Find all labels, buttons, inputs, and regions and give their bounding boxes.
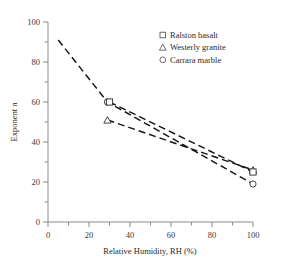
series-line-ralston-basalt — [110, 102, 254, 172]
x-tick-label: 80 — [208, 230, 217, 240]
series-line-westerly-granite — [107, 120, 253, 170]
series-westerly-granite — [104, 117, 257, 174]
triangle-marker-icon — [159, 44, 166, 50]
y-axis-ticks — [43, 22, 48, 222]
x-tick-label: 100 — [247, 230, 260, 240]
circle-marker-icon — [160, 57, 166, 63]
chart-legend: Ralston basalt Westerly granite Carrara … — [159, 30, 226, 65]
x-axis-title: Relative Humidity, RH (%) — [103, 246, 197, 256]
y-axis-tick-labels: 0 20 40 60 80 100 — [27, 17, 40, 227]
x-axis-ticks — [48, 222, 253, 227]
y-tick-label: 0 — [36, 217, 40, 227]
legend-entry-label: Carrara marble — [170, 55, 221, 65]
y-tick-label: 100 — [27, 17, 40, 27]
x-tick-label: 0 — [46, 230, 50, 240]
y-tick-label: 40 — [32, 137, 41, 147]
y-axis-title: Exponent n — [9, 102, 19, 142]
x-tick-label: 60 — [167, 230, 176, 240]
chart-figure: 0 20 40 60 80 100 0 20 40 60 80 — [0, 0, 284, 266]
x-axis-tick-labels: 0 20 40 60 80 100 — [46, 230, 260, 240]
y-tick-label: 60 — [32, 97, 41, 107]
x-tick-label: 40 — [126, 230, 135, 240]
data-point-marker — [106, 99, 112, 105]
x-tick-label: 20 — [85, 230, 94, 240]
legend-entry-label: Westerly granite — [170, 42, 226, 52]
series-carrara-marble — [58, 40, 256, 187]
data-point-marker — [104, 117, 111, 124]
data-point-marker — [250, 181, 256, 187]
series-line-carrara-marble — [58, 40, 253, 184]
legend-entry-label: Ralston basalt — [170, 30, 219, 40]
exponent-vs-humidity-chart: 0 20 40 60 80 100 0 20 40 60 80 — [0, 0, 284, 266]
y-tick-label: 80 — [32, 57, 41, 67]
data-point-marker — [250, 169, 256, 175]
y-tick-label: 20 — [32, 177, 41, 187]
square-marker-icon — [160, 32, 166, 38]
